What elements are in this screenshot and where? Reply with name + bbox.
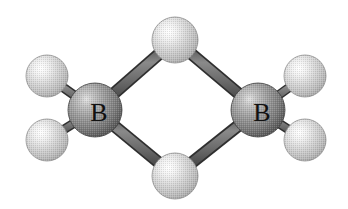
molecule-diagram: B B — [0, 0, 348, 209]
boron-left: B — [68, 83, 122, 137]
hydrogen-bridge-top — [152, 17, 198, 63]
hydrogen-bridge-bottom — [152, 153, 198, 199]
atom-layer: B B — [26, 17, 326, 199]
boron-right: B — [231, 83, 285, 137]
boron-right-label: B — [253, 98, 270, 127]
hydrogen-terminal-lower-left — [26, 119, 68, 161]
hydrogen-terminal-upper-right — [284, 55, 326, 97]
hydrogen-terminal-upper-left — [26, 55, 68, 97]
boron-left-label: B — [90, 98, 107, 127]
hydrogen-terminal-lower-right — [284, 119, 326, 161]
molecule-figure: B B — [0, 0, 348, 209]
